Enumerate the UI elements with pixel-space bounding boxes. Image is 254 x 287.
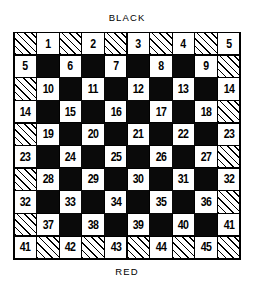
board-square-2: 2 <box>81 32 104 55</box>
square-number-label: 34 <box>110 196 121 208</box>
dark-square <box>149 168 172 191</box>
square-number-label: 22 <box>178 128 189 140</box>
square-number-label: 40 <box>178 219 189 231</box>
square-number-label: 8 <box>158 60 163 72</box>
board-square-33: 33 <box>59 190 82 213</box>
square-number-label: 33 <box>65 196 76 208</box>
board-square-41: 41 <box>14 236 37 259</box>
square-number-label: 14 <box>20 106 31 118</box>
square-number-label: 36 <box>201 196 212 208</box>
square-number-label: 28 <box>43 173 54 185</box>
bottom-side-label: RED <box>115 267 138 277</box>
board-square-5: 5 <box>14 55 37 78</box>
dark-square <box>59 168 82 191</box>
dark-square <box>172 100 195 123</box>
square-number-label: 1 <box>45 38 50 50</box>
board-square-11: 11 <box>81 77 104 100</box>
board-square-7: 7 <box>104 55 127 78</box>
board-square-12: 12 <box>127 77 150 100</box>
board-square-43: 43 <box>104 236 127 259</box>
square-number-label: 41 <box>20 241 31 253</box>
board-square-5: 5 <box>217 32 240 55</box>
board-square-38: 38 <box>81 213 104 236</box>
square-number-label: 30 <box>133 173 144 185</box>
hatched-square <box>36 236 59 259</box>
board-square-14: 14 <box>217 77 240 100</box>
square-number-label: 45 <box>201 241 212 253</box>
board-square-8: 8 <box>149 55 172 78</box>
board-square-13: 13 <box>172 77 195 100</box>
square-number-label: 23 <box>20 151 31 163</box>
board-square-45: 45 <box>194 236 217 259</box>
board-square-17: 17 <box>149 100 172 123</box>
board-square-25: 25 <box>104 145 127 168</box>
dark-square <box>59 123 82 146</box>
square-number-label: 10 <box>43 83 54 95</box>
square-number-label: 26 <box>156 151 167 163</box>
square-number-label: 16 <box>110 106 121 118</box>
board-square-30: 30 <box>127 168 150 191</box>
board-square-23: 23 <box>14 145 37 168</box>
dark-square <box>127 55 150 78</box>
dark-square <box>104 213 127 236</box>
square-number-label: 27 <box>201 151 212 163</box>
dark-square <box>81 55 104 78</box>
dark-square <box>194 168 217 191</box>
square-number-label: 6 <box>68 60 73 72</box>
square-number-label: 12 <box>133 83 144 95</box>
square-number-label: 43 <box>110 241 121 253</box>
board-square-28: 28 <box>36 168 59 191</box>
board-square-37: 37 <box>36 213 59 236</box>
board-square-14: 14 <box>14 100 37 123</box>
hatched-square <box>14 168 37 191</box>
hatched-square <box>217 100 240 123</box>
dark-square <box>149 123 172 146</box>
hatched-square <box>14 77 37 100</box>
board-square-31: 31 <box>172 168 195 191</box>
square-number-label: 31 <box>178 173 189 185</box>
square-number-label: 32 <box>20 196 31 208</box>
board-square-1: 1 <box>36 32 59 55</box>
board-square-36: 36 <box>194 190 217 213</box>
square-number-label: 23 <box>223 128 234 140</box>
board-square-24: 24 <box>59 145 82 168</box>
dark-square <box>81 190 104 213</box>
square-number-label: 24 <box>65 151 76 163</box>
square-number-label: 39 <box>133 219 144 231</box>
hatched-square <box>14 123 37 146</box>
board-square-20: 20 <box>81 123 104 146</box>
dark-square <box>172 55 195 78</box>
board-border: 1234556789101112131414151617181920212223… <box>13 32 241 260</box>
square-number-label: 3 <box>136 38 141 50</box>
square-number-label: 38 <box>88 219 99 231</box>
board-square-16: 16 <box>104 100 127 123</box>
board-square-40: 40 <box>172 213 195 236</box>
dark-square <box>172 145 195 168</box>
dark-square <box>59 213 82 236</box>
square-number-label: 44 <box>156 241 167 253</box>
square-number-label: 14 <box>223 83 234 95</box>
square-number-label: 17 <box>156 106 167 118</box>
board-square-41: 41 <box>217 213 240 236</box>
checkers-diagram: BLACK 1234556789101112131414151617181920… <box>0 0 254 287</box>
board-square-3: 3 <box>127 32 150 55</box>
dark-square <box>36 145 59 168</box>
square-number-label: 7 <box>113 60 118 72</box>
board-square-35: 35 <box>149 190 172 213</box>
checkers-board: 1234556789101112131414151617181920212223… <box>14 33 240 259</box>
hatched-square <box>14 32 37 55</box>
board-square-18: 18 <box>194 100 217 123</box>
square-number-label: 25 <box>110 151 121 163</box>
hatched-square <box>14 213 37 236</box>
hatched-square <box>81 236 104 259</box>
square-number-label: 9 <box>203 60 208 72</box>
board-square-29: 29 <box>81 168 104 191</box>
hatched-square <box>194 32 217 55</box>
square-number-label: 42 <box>65 241 76 253</box>
board-square-15: 15 <box>59 100 82 123</box>
hatched-square <box>172 236 195 259</box>
square-number-label: 11 <box>88 83 98 95</box>
hatched-square <box>217 190 240 213</box>
board-square-22: 22 <box>172 123 195 146</box>
dark-square <box>104 168 127 191</box>
